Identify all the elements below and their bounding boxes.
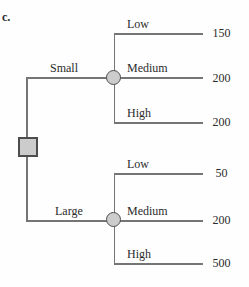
chance-node-large [106,212,121,227]
figure-label: c. [2,11,10,24]
outcome-line-large-high [114,263,204,265]
root-decision-node [18,137,38,157]
payoff-value-large-medium: 200 [203,214,240,227]
outcome-line-large-medium [114,220,204,222]
outcome-label-large-low: Low [127,158,149,171]
outcome-label-small-medium: Medium [127,62,168,75]
outcome-label-large-high: High [127,248,151,261]
outcome-label-large-medium: Medium [127,205,168,218]
decision-tree-diagram: c. Small Large Low Medium High Low Mediu… [0,0,249,287]
outcome-line-small-medium [114,77,204,79]
branch-large-line [26,220,114,222]
outcome-line-small-low [114,33,204,35]
branch-small-line [26,77,114,79]
payoff-value-large-low: 50 [203,167,240,180]
payoff-value-large-high: 500 [203,257,240,270]
payoff-value-small-high: 200 [203,116,240,129]
outcome-line-large-low [114,173,204,175]
chance-node-small [106,70,121,85]
outcome-line-small-high [114,122,204,124]
payoff-value-small-medium: 200 [203,72,240,85]
branch-label-small: Small [50,62,78,75]
outcome-label-small-low: Low [127,18,149,31]
payoff-value-small-low: 150 [203,27,240,40]
outcome-label-small-high: High [127,107,151,120]
branch-label-large: Large [55,205,83,218]
